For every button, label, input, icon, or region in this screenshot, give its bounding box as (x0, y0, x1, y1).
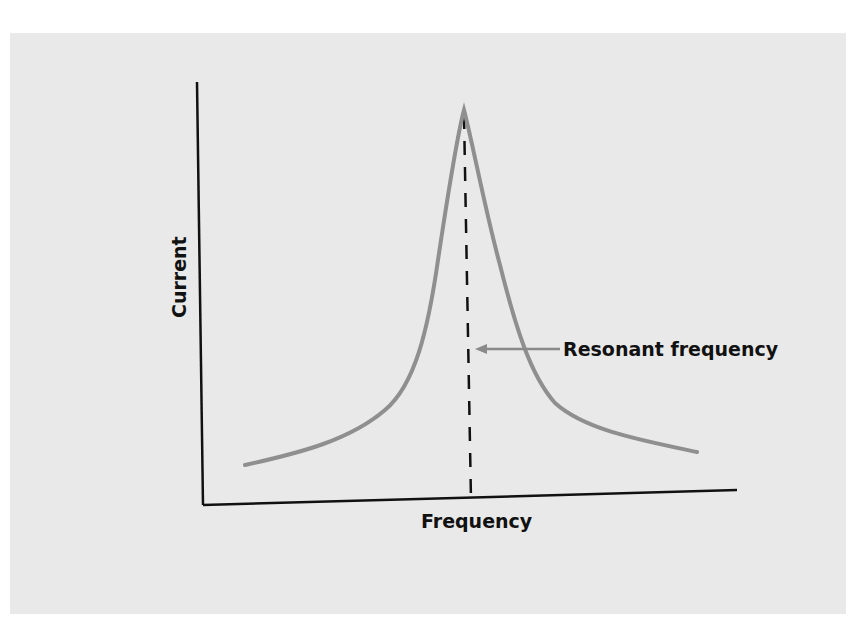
annotation-label: Resonant frequency (563, 338, 779, 360)
y-axis (197, 82, 203, 505)
resonant-frequency-dashed-line (464, 115, 471, 500)
resonance-chart: Resonant frequency Frequency Current (0, 0, 857, 642)
y-axis-label: Current (168, 236, 190, 318)
x-axis-label: Frequency (421, 510, 533, 532)
resonance-curve (245, 110, 697, 465)
arrow-head-icon (475, 344, 487, 354)
